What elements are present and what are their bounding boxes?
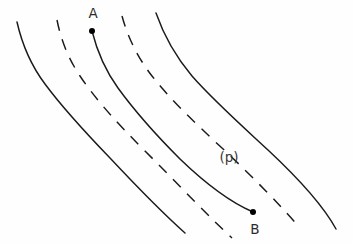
point-a-label: A (88, 5, 98, 21)
diagram-background (0, 0, 353, 245)
p-annotation-label: (p) (219, 149, 238, 165)
field-lines-diagram: A B (p) (0, 0, 353, 245)
point-b-label: B (250, 221, 259, 237)
point-a-dot (89, 28, 95, 34)
figure-canvas: A B (p) (0, 0, 353, 245)
point-b-dot (250, 209, 256, 215)
